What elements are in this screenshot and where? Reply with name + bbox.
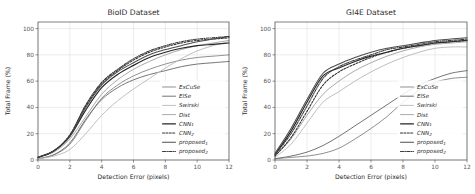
x-axis-label: Detection Error (pixels): [98, 173, 170, 181]
x-tick-label: 12: [225, 164, 233, 170]
legend-label-dist[interactable]: Dist: [417, 111, 429, 117]
y-tick-label: 40: [264, 104, 272, 110]
x-tick-label: 2: [305, 164, 309, 170]
chart-svg-bioid: 024681012020406080100BioID DatasetDetect…: [0, 0, 237, 194]
x-tick-label: 0: [273, 164, 277, 170]
y-tick-label: 20: [264, 131, 272, 137]
legend: ExCuSeElSeSwirskiDistCNN1CNN2proposed1pr…: [160, 80, 226, 158]
chart-panel-gi4e: 024681012020406080100GI4E DatasetDetecti…: [237, 0, 474, 194]
x-tick-label: 4: [100, 164, 104, 170]
y-tick-label: 60: [264, 78, 272, 84]
y-tick-label: 60: [27, 78, 35, 84]
legend-label-else[interactable]: ElSe: [179, 93, 192, 99]
x-axis-label: Detection Error (pixels): [335, 173, 407, 181]
x-tick-label: 0: [36, 164, 40, 170]
y-tick-label: 0: [267, 157, 271, 163]
legend-label-else[interactable]: ElSe: [417, 93, 430, 99]
x-tick-label: 4: [337, 164, 341, 170]
chart-title: BioID Dataset: [107, 8, 159, 17]
chart-svg-gi4e: 024681012020406080100GI4E DatasetDetecti…: [237, 0, 475, 194]
legend-background: [160, 80, 226, 158]
x-tick-label: 8: [401, 164, 405, 170]
legend-label-excuse[interactable]: ExCuSe: [179, 84, 201, 90]
legend-label-swirski[interactable]: Swirski: [179, 102, 199, 108]
x-tick-label: 12: [463, 164, 471, 170]
y-tick-label: 80: [264, 52, 272, 58]
y-axis-label: Total Frame (%): [241, 67, 248, 116]
x-tick-label: 6: [369, 164, 373, 170]
y-tick-label: 100: [260, 26, 271, 32]
legend-label-swirski[interactable]: Swirski: [417, 102, 437, 108]
legend-background: [398, 80, 464, 158]
y-tick-label: 0: [30, 157, 34, 163]
legend-label-dist[interactable]: Dist: [179, 111, 191, 117]
y-axis-label: Total Frame (%): [4, 67, 11, 116]
x-tick-label: 8: [163, 164, 167, 170]
x-tick-label: 2: [68, 164, 72, 170]
x-tick-label: 10: [193, 164, 201, 170]
chart-title: GI4E Dataset: [346, 8, 396, 17]
y-tick-label: 80: [27, 52, 35, 58]
x-tick-label: 10: [431, 164, 439, 170]
y-tick-label: 20: [27, 131, 35, 137]
chart-panel-bioid: 024681012020406080100BioID DatasetDetect…: [0, 0, 237, 194]
y-tick-label: 100: [23, 26, 34, 32]
y-tick-label: 40: [27, 104, 35, 110]
legend: ExCuSeElSeSwirskiDistCNN1CNN2proposed1pr…: [398, 80, 464, 158]
figure-container: 024681012020406080100BioID DatasetDetect…: [0, 0, 475, 194]
x-tick-label: 6: [132, 164, 136, 170]
legend-label-excuse[interactable]: ExCuSe: [417, 84, 439, 90]
